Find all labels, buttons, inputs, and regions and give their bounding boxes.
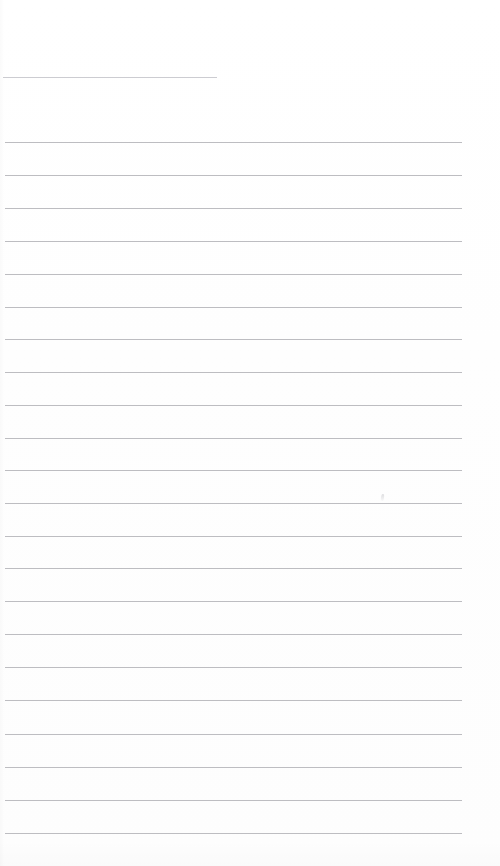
ruled-line <box>5 405 462 406</box>
ruled-line <box>5 307 462 308</box>
ruled-line <box>5 700 462 701</box>
ruled-line <box>5 470 462 471</box>
scan-edge-shading-bottom <box>0 840 500 866</box>
ruled-line <box>5 339 462 340</box>
ruled-line <box>5 667 462 668</box>
ruled-line <box>5 536 462 537</box>
ruled-line <box>5 142 462 143</box>
ruled-line <box>5 274 462 275</box>
header-rule <box>3 77 217 78</box>
paper-texture <box>0 0 500 866</box>
ruled-line <box>5 503 462 504</box>
ruled-line <box>5 833 462 834</box>
ruled-line <box>5 634 462 635</box>
ruled-line <box>5 438 462 439</box>
ruled-line <box>5 734 462 735</box>
ruled-line <box>5 800 462 801</box>
ruled-line <box>5 208 462 209</box>
ruled-line <box>5 568 462 569</box>
lined-paper-page <box>0 0 500 866</box>
scan-edge-shading-left <box>0 0 4 866</box>
ruled-line <box>5 767 462 768</box>
ruled-line <box>5 601 462 602</box>
ruled-line <box>5 241 462 242</box>
faint-pencil-mark <box>381 494 385 501</box>
ruled-line <box>5 372 462 373</box>
ruled-line <box>5 175 462 176</box>
